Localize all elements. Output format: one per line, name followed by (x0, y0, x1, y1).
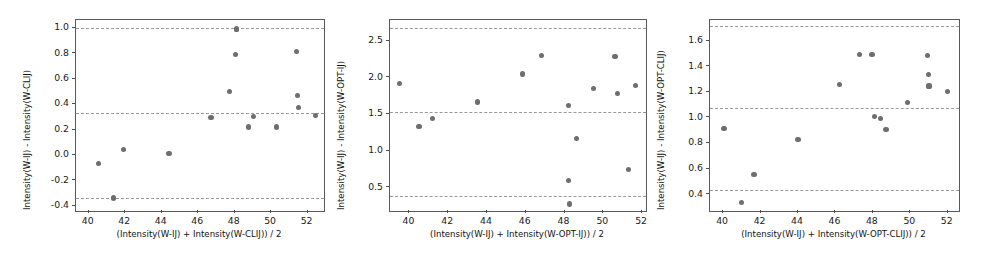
y-tick-label: 1.5 (341, 108, 383, 117)
data-point (869, 52, 874, 57)
data-point (926, 83, 931, 88)
x-axis-label: (Intensity(W-IJ) + Intensity(W-OPT-IJ)) … (359, 230, 675, 239)
x-tick-mark (909, 210, 910, 213)
data-point (251, 114, 256, 119)
x-tick-label: 46 (814, 216, 854, 225)
chart-panel-2: 0.51.01.52.02.540424446485052(Intensity(… (330, 0, 660, 261)
data-point (233, 52, 238, 57)
x-tick-label: 42 (104, 216, 144, 225)
data-point (274, 124, 279, 129)
x-tick-mark (307, 210, 308, 213)
y-tick-label: 1.6 (661, 35, 703, 44)
data-point (872, 114, 877, 119)
y-tick-mark (72, 27, 75, 28)
data-point (96, 161, 101, 166)
x-tick-mark (88, 210, 89, 213)
data-point (878, 116, 883, 121)
y-tick-label: 0.8 (27, 48, 69, 57)
data-point (926, 72, 931, 77)
x-tick-mark (408, 210, 409, 213)
y-tick-mark (72, 52, 75, 53)
upper-limit-of-agreement-line (390, 28, 646, 29)
data-point (208, 115, 213, 120)
mean-bias-line (390, 112, 646, 113)
chart-panel-1: -0.4-0.20.00.20.40.60.81.040424446485052… (0, 0, 330, 261)
y-tick-label: 2.5 (341, 35, 383, 44)
data-point (567, 201, 572, 206)
y-tick-label: 0.4 (661, 189, 703, 198)
plot-area (709, 19, 960, 212)
data-point (166, 151, 171, 156)
x-tick-mark (722, 210, 723, 213)
upper-limit-of-agreement-line (710, 26, 959, 27)
x-tick-mark (834, 210, 835, 213)
data-point (721, 126, 726, 131)
x-tick-label: 46 (505, 216, 545, 225)
x-tick-label: 48 (544, 216, 584, 225)
y-tick-mark (72, 179, 75, 180)
y-tick-label: -0.2 (27, 175, 69, 184)
y-tick-mark (72, 103, 75, 104)
data-point (633, 83, 638, 88)
data-point (795, 137, 800, 142)
y-tick-label: 0.6 (27, 73, 69, 82)
x-tick-label: 52 (927, 216, 967, 225)
y-tick-label: 0.4 (27, 98, 69, 107)
y-tick-label: 1.0 (661, 112, 703, 121)
data-point (566, 103, 571, 108)
y-tick-label: 1.2 (661, 86, 703, 95)
data-point (475, 99, 480, 104)
x-tick-mark (602, 210, 603, 213)
x-tick-label: 46 (177, 216, 217, 225)
data-point (227, 89, 232, 94)
data-point (626, 167, 631, 172)
y-tick-label: 0.2 (27, 124, 69, 133)
data-point (294, 49, 299, 54)
y-tick-label: 2.0 (341, 72, 383, 81)
x-tick-mark (161, 210, 162, 213)
y-tick-mark (72, 129, 75, 130)
y-tick-mark (72, 78, 75, 79)
x-tick-mark (270, 210, 271, 213)
x-tick-mark (797, 210, 798, 213)
x-tick-mark (234, 210, 235, 213)
data-point (612, 54, 617, 59)
y-axis-label: Intensity(W-IJ) - Intensity(W-OPT-IJ) (337, 61, 346, 210)
y-tick-mark (386, 40, 389, 41)
data-point (883, 127, 888, 132)
y-tick-mark (72, 205, 75, 206)
y-tick-mark (72, 154, 75, 155)
x-tick-label: 52 (287, 216, 327, 225)
data-point (416, 124, 421, 129)
data-point (246, 124, 251, 129)
data-point (296, 105, 301, 110)
data-point (520, 71, 525, 76)
y-axis-label: Intensity(W-IJ) - Intensity(W-OPT-CLIJ) (657, 50, 666, 210)
y-tick-label: 1.0 (341, 145, 383, 154)
data-point (121, 147, 126, 152)
x-tick-label: 50 (250, 216, 290, 225)
data-point (430, 116, 435, 121)
plot-area (75, 19, 325, 212)
x-tick-label: 40 (68, 216, 108, 225)
y-tick-mark (386, 150, 389, 151)
y-tick-label: 0.0 (27, 149, 69, 158)
y-tick-mark (706, 40, 709, 41)
y-tick-label: 0.5 (341, 182, 383, 191)
chart-panel-3: 0.40.60.81.01.21.41.640424446485052(Inte… (660, 0, 990, 261)
y-tick-mark (706, 168, 709, 169)
x-tick-label: 44 (466, 216, 506, 225)
x-axis-label: (Intensity(W-IJ) + Intensity(W-OPT-CLIJ)… (679, 230, 988, 239)
y-axis-label: Intensity(W-IJ) - Intensity(W-CLIJ) (23, 70, 32, 210)
upper-limit-of-agreement-line (76, 28, 324, 29)
mean-bias-line (710, 108, 959, 109)
data-point (574, 136, 579, 141)
x-tick-label: 40 (388, 216, 428, 225)
x-tick-mark (124, 210, 125, 213)
x-tick-label: 44 (141, 216, 181, 225)
data-point (539, 53, 544, 58)
y-tick-mark (386, 76, 389, 77)
lower-limit-of-agreement-line (390, 196, 646, 197)
plot-area (389, 19, 647, 212)
mean-bias-line (76, 113, 324, 114)
